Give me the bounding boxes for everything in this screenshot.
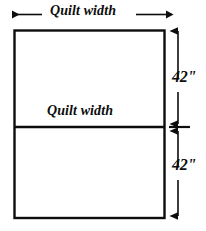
- height-dimension-group: [169, 31, 190, 216]
- quilt-width-inner-label: Quilt width: [47, 104, 113, 118]
- quilt-rectangle: [15, 31, 165, 219]
- quilt-width-top-label: Quilt width: [50, 4, 116, 18]
- quilt-diagram: Quilt width Quilt width 42" 42": [0, 0, 206, 231]
- height-dimension-bottom-label: 42": [172, 157, 196, 173]
- height-dimension-top-label: 42": [172, 69, 196, 85]
